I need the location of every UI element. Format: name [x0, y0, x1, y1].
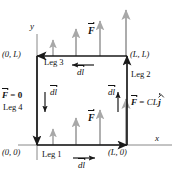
force-label-bottom: F [88, 113, 95, 123]
corner-label-bottom-right: (L, 0) [108, 148, 127, 157]
dl-label-leg2: dl [108, 88, 115, 97]
force-label-right-clj: F = CLj [131, 98, 161, 107]
vector-arrow-accent [77, 65, 84, 66]
dl-direction-arrows [45, 65, 118, 158]
force-field-square-path-diagram: y x (0, L) (L, L) (0, 0) (L, 0) Leg 1 Le… [0, 0, 188, 178]
vector-arrow-accent [2, 88, 8, 89]
leg4-label: Leg 4 [3, 103, 23, 112]
dl-label-leg1: dl [78, 161, 85, 170]
dl-label-leg4: dl [50, 88, 57, 97]
force-label-top: F [88, 26, 95, 36]
corner-label-top-left: (0, L) [2, 50, 21, 59]
vector-arrow-accent [88, 23, 95, 24]
leg2-label: Leg 2 [131, 70, 151, 79]
vector-arrow-accent [50, 85, 57, 86]
corner-label-top-right: (L, L) [130, 50, 149, 59]
dl-label-leg3: dl [77, 68, 84, 77]
corner-label-origin: (0, 0) [2, 148, 20, 157]
force-value-left: 0 [18, 90, 23, 100]
vector-arrow-accent [78, 158, 85, 159]
vector-arrow-accent [108, 85, 115, 86]
y-axis-label: y [30, 22, 34, 31]
equals-sign-right: = [137, 97, 147, 107]
vector-arrow-accent [131, 95, 137, 96]
force-label-left-zero: F = 0 [2, 91, 22, 100]
force-value-right: CL [147, 97, 158, 107]
leg1-label: Leg 1 [42, 150, 62, 159]
equals-sign-left: = [8, 90, 18, 100]
x-axis-label: x [155, 134, 159, 143]
leg3-label: Leg 3 [44, 58, 64, 67]
vector-arrow-accent [88, 110, 95, 111]
